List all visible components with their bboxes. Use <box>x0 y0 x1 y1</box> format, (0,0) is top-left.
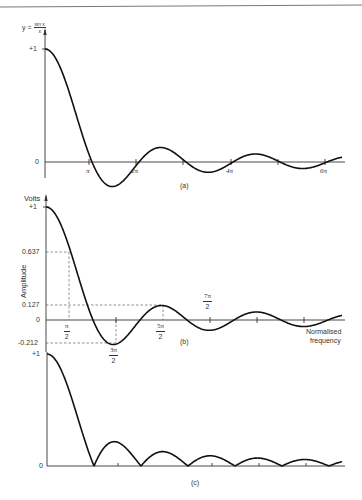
panel-c-ytick-0: 0 <box>39 462 43 469</box>
panel-c-abs-sinc-curve <box>47 354 342 466</box>
panel-b-ytick-plus1: +1 <box>29 203 37 210</box>
panel-a-equation: y = sin xx <box>22 21 46 34</box>
panel-b-ytick-0: 0 <box>36 316 40 323</box>
panel-a-xtick-pi: π <box>86 168 90 175</box>
panel-b-y-unit: Volts <box>24 195 40 203</box>
equation-numerator: sin x <box>34 21 46 28</box>
panel-a-xtick-2pi: 2π <box>131 168 138 175</box>
equation-lhs: y = <box>22 24 32 31</box>
panel-b-y-axis-title: Amplitude <box>19 265 28 298</box>
frac-num: 3π <box>109 347 118 356</box>
panel-a-xtick-4pi: 4π <box>226 168 233 175</box>
panel-b-caption: (b) <box>180 338 189 345</box>
panel-b-ytick-neg0212: -0.212 <box>18 339 38 346</box>
panel-b-xtick-3pi-over-2: 3π 2 <box>109 347 118 364</box>
panel-b-xtick-7pi-over-2: 7π 2 <box>203 293 212 310</box>
panel-a-ytick-plus1: +1 <box>29 45 37 52</box>
panel-b-sinc-curve <box>46 207 342 345</box>
panel-b-x-axis-title-line1: Normalised <box>306 328 341 335</box>
top-rule <box>0 5 362 7</box>
panel-a-axes <box>42 28 345 178</box>
panel-c-caption: (c) <box>191 479 199 486</box>
panel-a-xtick-6pi: 6π <box>320 168 327 175</box>
frac-den: 2 <box>64 332 70 340</box>
equation-denominator: x <box>34 28 46 34</box>
panel-a-sinc-curve <box>45 49 342 187</box>
frac-den: 2 <box>156 332 165 340</box>
figure-canvas <box>0 0 362 500</box>
frac-den: 2 <box>109 356 118 364</box>
frac-num: 7π <box>203 293 212 302</box>
frac-num: π <box>64 323 70 332</box>
panel-b-xtick-pi-over-2: π 2 <box>64 323 70 340</box>
panel-b-ytick-0127: 0.127 <box>22 301 40 308</box>
panel-a-caption: (a) <box>180 182 189 189</box>
frac-den: 2 <box>203 302 212 310</box>
panel-c-ytick-plus1: +1 <box>32 350 40 357</box>
panel-b-axes <box>43 194 345 352</box>
frac-num: 5π <box>156 323 165 332</box>
panel-b-xtick-5pi-over-2: 5π 2 <box>156 323 165 340</box>
panel-a-ytick-0: 0 <box>35 158 39 165</box>
panel-b-ytick-0637: 0.637 <box>22 248 40 255</box>
panel-c-axes <box>47 352 345 466</box>
panel-b-x-axis-title-line2: frequency <box>310 337 341 344</box>
